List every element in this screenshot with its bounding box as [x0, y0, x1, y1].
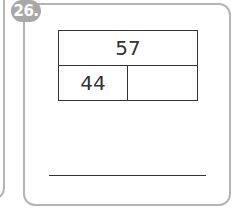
whole-cell: 57: [59, 31, 197, 66]
problem-number-badge: 26.: [11, 0, 41, 22]
part-a-cell: 44: [59, 66, 128, 100]
answer-line[interactable]: [49, 175, 206, 176]
number-bond-table: 57 44: [58, 30, 198, 101]
previous-card-edge: [0, 0, 5, 200]
part-b-cell-blank[interactable]: [128, 66, 197, 100]
